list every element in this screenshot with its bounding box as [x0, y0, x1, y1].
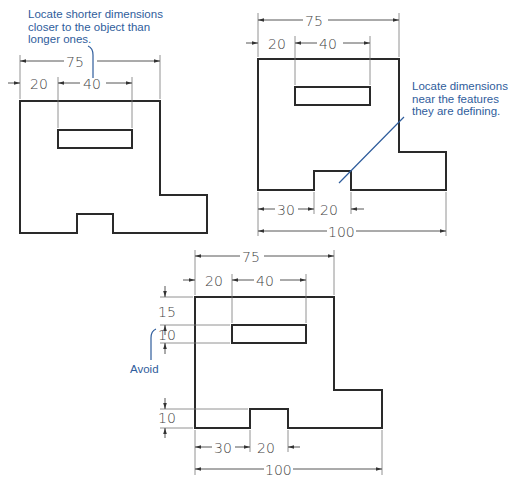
dim-15-text: 15: [158, 304, 176, 320]
figure-2: 75 20 40 30 20 100: [246, 13, 446, 240]
leader-line: [151, 329, 156, 360]
figure-3: 75 20 40 15 10 10 30 20: [151, 249, 382, 478]
dim-75-text: 75: [305, 13, 323, 29]
slot: [295, 87, 370, 105]
dim-40-text: 40: [83, 76, 101, 92]
dim-20-text: 20: [30, 76, 48, 92]
callout-avoid: Avoid: [130, 363, 159, 376]
dim-100-text: 100: [328, 224, 355, 240]
leader-line: [339, 117, 404, 183]
slot: [232, 325, 306, 343]
dim-20b-text: 20: [257, 440, 275, 456]
slot: [58, 130, 132, 148]
leader-line: [88, 46, 93, 78]
dim-20-text: 20: [268, 36, 286, 52]
callout-shorter-closer: Locate shorter dimensions closer to the …: [28, 8, 163, 46]
dim-20b-text: 20: [320, 202, 338, 218]
callout-near-features: Locate dimensions near the features they…: [412, 80, 508, 118]
dim-10-text: 10: [158, 327, 176, 343]
dim-40-text: 40: [319, 36, 337, 52]
dim-20-text: 20: [205, 273, 223, 289]
dim-75-text: 75: [242, 249, 260, 265]
dim-10b-text: 10: [158, 410, 176, 426]
object-outline: [195, 297, 382, 428]
object-outline: [20, 101, 207, 233]
dim-75-text: 75: [66, 54, 84, 70]
figure-1: 75 20 40: [8, 46, 207, 233]
dim-30-text: 30: [214, 440, 232, 456]
dim-40-text: 40: [256, 273, 274, 289]
dim-30-text: 30: [277, 202, 295, 218]
dim-100-text: 100: [265, 462, 292, 478]
